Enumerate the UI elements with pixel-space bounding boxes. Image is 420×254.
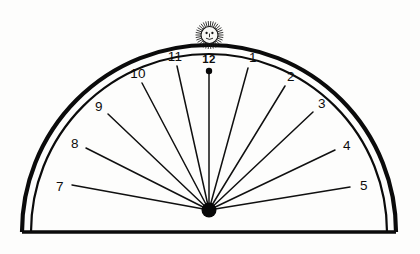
hour-numeral-7: 7 <box>56 179 64 194</box>
hour-numeral-10: 10 <box>130 66 146 81</box>
sundial-drawing-canvas: 78910111212345 <box>0 0 420 254</box>
hour-numeral-3: 3 <box>318 96 326 111</box>
hour-line-9 <box>108 114 209 210</box>
hour-line-11 <box>177 66 209 210</box>
sun-right-eye-icon <box>211 32 213 34</box>
hour-line-10 <box>142 83 209 210</box>
hour-numeral-11: 11 <box>168 49 183 64</box>
hour-line-8 <box>86 148 209 210</box>
hour-numeral-1: 1 <box>249 50 257 65</box>
hour-line-1 <box>209 68 248 210</box>
hour-numeral-12: 12 <box>202 53 215 65</box>
hour-numeral-8: 8 <box>71 136 79 151</box>
sun-left-eye-icon <box>205 32 207 34</box>
noon-line-tip-dot <box>206 68 212 74</box>
hour-numeral-4: 4 <box>343 138 351 153</box>
hour-numeral-2: 2 <box>287 69 295 84</box>
sundial-figure: 78910111212345 <box>0 0 420 254</box>
hour-line-7 <box>72 185 209 210</box>
hour-numeral-9: 9 <box>95 99 103 114</box>
hour-numeral-5: 5 <box>360 178 368 193</box>
hour-lines-group <box>72 66 350 210</box>
center-nodus-dot <box>202 203 217 218</box>
